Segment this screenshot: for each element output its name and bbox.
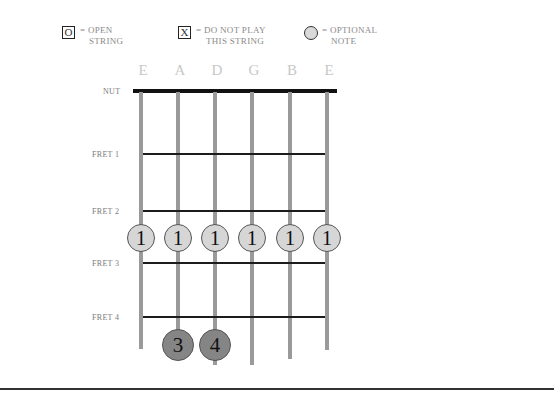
- legend-optional-line1: = OPTIONAL: [322, 25, 377, 36]
- legend-muted-line2: THIS STRING: [206, 36, 264, 47]
- optional-note-circle-icon: [304, 26, 318, 40]
- finger-1-high-e: 1: [313, 224, 341, 252]
- string-name-low-e: E: [133, 62, 153, 79]
- fret-2: [143, 210, 325, 212]
- bottom-divider: [0, 388, 554, 390]
- finger-1-low-e: 1: [127, 224, 155, 252]
- legend: O = OPEN STRING X = DO NOT PLAY THIS STR…: [0, 0, 554, 60]
- fret-3-label: FRET 3: [92, 259, 119, 268]
- string-name-d: D: [207, 62, 227, 79]
- fret-3: [143, 262, 325, 264]
- fret-4: [143, 316, 325, 318]
- open-string-box-icon: O: [62, 26, 75, 39]
- finger-1-g: 1: [238, 224, 266, 252]
- finger-1-a: 1: [164, 224, 192, 252]
- finger-1-b: 1: [276, 224, 304, 252]
- fret-4-label: FRET 4: [92, 313, 119, 322]
- fret-2-label: FRET 2: [92, 207, 119, 216]
- fret-1-label: FRET 1: [92, 150, 119, 159]
- legend-muted-line1: = DO NOT PLAY: [196, 25, 266, 36]
- string-name-b: B: [282, 62, 302, 79]
- legend-open-line1: = OPEN: [80, 25, 113, 36]
- string-name-high-e: E: [319, 62, 339, 79]
- legend-optional-line2: NOTE: [331, 36, 356, 47]
- string-name-g: G: [244, 62, 264, 79]
- finger-4-d: 4: [199, 329, 231, 361]
- nut-label: NUT: [103, 87, 120, 96]
- nut: [133, 89, 337, 93]
- string-low-e: [139, 92, 143, 349]
- string-a: [176, 92, 180, 332]
- legend-open-line2: STRING: [89, 36, 123, 47]
- string-high-e: [325, 92, 329, 350]
- finger-1-d: 1: [201, 224, 229, 252]
- muted-string-box-icon: X: [178, 26, 191, 39]
- fret-1: [143, 153, 325, 155]
- string-name-a: A: [170, 62, 190, 79]
- finger-3-a: 3: [162, 329, 194, 361]
